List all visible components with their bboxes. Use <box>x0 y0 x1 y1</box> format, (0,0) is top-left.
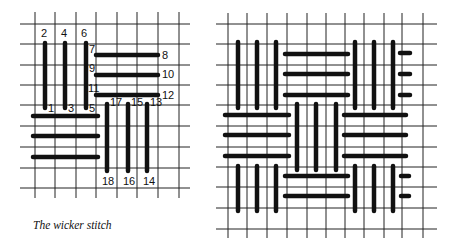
stitch-number-label: 1 <box>48 102 54 114</box>
stitch-number-label: 10 <box>162 68 174 80</box>
stitch-number-label: 2 <box>41 27 47 39</box>
stitch-number-label: 5 <box>89 102 95 114</box>
stitch-number-label: 15 <box>131 96 143 108</box>
stitch-number-label: 8 <box>162 49 168 61</box>
stitch-number-label: 13 <box>150 96 162 108</box>
stitch-number-label: 3 <box>68 102 74 114</box>
stitch-number-label: 14 <box>143 175 155 187</box>
right-figure <box>216 13 437 238</box>
wicker-stitch-diagrams: 246789101112135171513181614 <box>0 0 457 250</box>
stitch-number-label: 16 <box>123 175 135 187</box>
stitch-number-label: 11 <box>88 82 99 94</box>
stitch-number-label: 12 <box>162 89 174 101</box>
right-grid <box>216 13 437 238</box>
stitch-number-label: 6 <box>81 27 87 39</box>
stitch-number-label: 17 <box>110 96 122 108</box>
stitch-number-label: 9 <box>89 62 95 74</box>
figure-caption: The wicker stitch <box>33 219 112 231</box>
stitch-number-label: 18 <box>102 175 114 187</box>
stitch-number-label: 4 <box>61 27 67 39</box>
left-figure: 246789101112135171513181614 <box>20 12 190 198</box>
stitch-number-label: 7 <box>89 43 95 55</box>
